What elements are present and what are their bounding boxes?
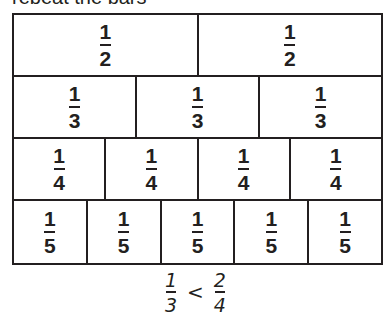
strip-cell-fourth: 1 4 <box>197 139 289 199</box>
fraction-bar <box>315 106 326 108</box>
fraction: 1 2 <box>99 21 111 70</box>
strip-cell-third: 1 3 <box>258 77 381 137</box>
numerator: 1 <box>238 145 250 167</box>
strip-cell-fourth: 1 4 <box>289 139 381 199</box>
strip-cell-fourth: 1 4 <box>14 139 104 199</box>
left-fraction: 1 3 <box>165 270 177 315</box>
fraction: 1 5 <box>339 208 351 257</box>
numerator: 1 <box>165 270 177 290</box>
fraction-bar <box>166 291 176 293</box>
fraction: 1 5 <box>265 208 277 257</box>
fraction: 1 2 <box>284 21 296 70</box>
denominator: 5 <box>339 235 351 257</box>
denominator: 4 <box>214 295 226 315</box>
strip-cell-fifth: 1 5 <box>86 201 160 263</box>
fraction-bar <box>192 231 203 233</box>
fraction: 1 5 <box>192 208 204 257</box>
numerator: 1 <box>315 83 327 105</box>
fraction-bar <box>118 231 129 233</box>
denominator: 3 <box>315 110 327 132</box>
fraction: 1 4 <box>330 145 342 194</box>
strip-cell-fifth: 1 5 <box>160 201 234 263</box>
numerator: 1 <box>118 208 130 230</box>
fifths-row: 1 5 1 5 1 5 1 5 <box>14 199 381 263</box>
fraction: 1 3 <box>69 83 81 132</box>
numerator: 1 <box>339 208 351 230</box>
strip-cell-third: 1 3 <box>135 77 258 137</box>
strip-cell-fifth: 1 5 <box>307 201 381 263</box>
denominator: 3 <box>69 110 81 132</box>
fourths-row: 1 4 1 4 1 4 1 4 <box>14 137 381 199</box>
fraction: 1 5 <box>118 208 130 257</box>
fraction-bar <box>215 291 225 293</box>
fraction-bar <box>44 231 55 233</box>
numerator: 1 <box>44 208 56 230</box>
fraction: 1 4 <box>146 145 158 194</box>
less-than-operator: < <box>187 280 204 304</box>
fraction-bar <box>266 231 277 233</box>
denominator: 5 <box>118 235 130 257</box>
numerator: 2 <box>214 270 226 290</box>
strip-cell-half: 1 2 <box>14 15 197 75</box>
numerator: 1 <box>284 21 296 43</box>
denominator: 4 <box>53 172 65 194</box>
fraction-bar <box>192 106 203 108</box>
denominator: 2 <box>284 48 296 70</box>
thirds-row: 1 3 1 3 1 3 <box>14 75 381 137</box>
halves-row: 1 2 1 2 <box>14 15 381 75</box>
strip-cell-third: 1 3 <box>14 77 135 137</box>
denominator: 5 <box>192 235 204 257</box>
fraction-bar <box>330 168 341 170</box>
denominator: 4 <box>238 172 250 194</box>
fraction-strips: 1 2 1 2 1 3 1 3 <box>12 13 383 265</box>
denominator: 4 <box>146 172 158 194</box>
denominator: 5 <box>44 235 56 257</box>
fraction-bar <box>284 44 295 46</box>
fraction-bar <box>238 168 249 170</box>
numerator: 1 <box>192 83 204 105</box>
fraction-comparison: 1 3 < 2 4 <box>165 270 226 315</box>
strip-cell-fourth: 1 4 <box>104 139 196 199</box>
numerator: 1 <box>330 145 342 167</box>
denominator: 3 <box>192 110 204 132</box>
strip-cell-fifth: 1 5 <box>233 201 307 263</box>
header-text: repeat the bars <box>12 0 147 4</box>
denominator: 5 <box>265 235 277 257</box>
fraction: 1 3 <box>315 83 327 132</box>
denominator: 3 <box>165 295 177 315</box>
numerator: 1 <box>146 145 158 167</box>
numerator: 1 <box>192 208 204 230</box>
fraction: 1 4 <box>53 145 65 194</box>
denominator: 4 <box>330 172 342 194</box>
numerator: 1 <box>265 208 277 230</box>
fraction: 1 5 <box>44 208 56 257</box>
fraction-bar <box>340 231 351 233</box>
fraction-bar <box>100 44 111 46</box>
right-fraction: 2 4 <box>214 270 226 315</box>
strip-cell-fifth: 1 5 <box>14 201 86 263</box>
strip-cell-half: 1 2 <box>197 15 382 75</box>
denominator: 2 <box>99 48 111 70</box>
numerator: 1 <box>69 83 81 105</box>
fraction-bar <box>146 168 157 170</box>
fraction-bar <box>69 106 80 108</box>
numerator: 1 <box>53 145 65 167</box>
fraction-bar <box>54 168 65 170</box>
fraction: 1 4 <box>238 145 250 194</box>
fraction: 1 3 <box>192 83 204 132</box>
numerator: 1 <box>99 21 111 43</box>
